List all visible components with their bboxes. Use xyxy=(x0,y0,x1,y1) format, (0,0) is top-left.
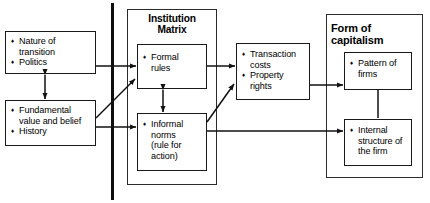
transaction-costs-list: Transaction costs Property rights xyxy=(242,49,306,91)
fundamental-value-and-belief-box[interactable]: Fundamental value and belief History xyxy=(5,100,96,146)
list-item: value and belief xyxy=(11,116,92,127)
list-item: History xyxy=(11,126,92,137)
list-item: Fundamental xyxy=(11,105,92,116)
list-item: Informal xyxy=(143,119,203,130)
form-of-capitalism-title-line1: Form of xyxy=(331,22,371,34)
list-item: Pattern of xyxy=(350,58,408,69)
list-item: Transaction xyxy=(242,49,306,60)
nature-of-transition-list: Nature of transition Politics xyxy=(11,36,92,68)
transaction-costs-box[interactable]: Transaction costs Property rights xyxy=(236,43,310,100)
institution-matrix-title: Institution Matrix xyxy=(127,13,217,36)
institution-matrix-title-line2: Matrix xyxy=(157,24,186,35)
form-of-capitalism-title-line2: capitalism xyxy=(331,34,383,46)
nature-of-transition-box[interactable]: Nature of transition Politics xyxy=(5,31,96,74)
list-item: Formal xyxy=(143,52,203,63)
list-item: norms xyxy=(143,130,203,141)
list-item: Internal xyxy=(350,125,408,136)
institution-matrix-title-line1: Institution xyxy=(148,13,196,24)
pattern-of-firms-list: Pattern of firms xyxy=(350,58,408,79)
list-item: costs xyxy=(242,60,306,71)
fundamental-value-list: Fundamental value and belief History xyxy=(11,105,92,137)
list-item: action) xyxy=(143,151,203,162)
list-item: rights xyxy=(242,81,306,92)
pattern-of-firms-box[interactable]: Pattern of firms xyxy=(344,52,412,90)
list-item: Nature of xyxy=(11,36,92,47)
list-item: Property xyxy=(242,70,306,81)
internal-structure-of-the-firm-box[interactable]: Internal structure of the firm xyxy=(344,119,412,166)
list-item: firms xyxy=(350,69,408,80)
list-item: transition xyxy=(11,47,92,58)
list-item: Politics xyxy=(11,57,92,68)
list-item: the firm xyxy=(350,146,408,157)
list-item: rules xyxy=(143,63,203,74)
vertical-divider xyxy=(111,3,114,200)
list-item: structure of xyxy=(350,136,408,147)
formal-rules-box[interactable]: Formal rules xyxy=(137,44,207,89)
diagram-canvas: Nature of transition Politics Fundamenta… xyxy=(0,0,430,203)
informal-norms-box[interactable]: Informal norms (rule for action) xyxy=(137,113,207,171)
informal-norms-list: Informal norms (rule for action) xyxy=(143,119,203,161)
form-of-capitalism-title: Form of capitalism xyxy=(331,22,419,47)
list-item: (rule for xyxy=(143,140,203,151)
formal-rules-list: Formal rules xyxy=(143,52,203,73)
internal-structure-list: Internal structure of the firm xyxy=(350,125,408,157)
